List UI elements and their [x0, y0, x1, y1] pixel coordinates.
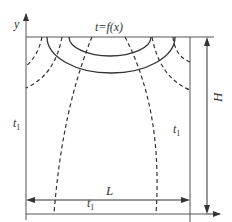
width-label: L [105, 183, 113, 198]
y-axis-label: y [13, 17, 20, 31]
flux-line-center-left [54, 37, 92, 214]
height-dimension [204, 37, 210, 214]
flux-line-left-top [26, 37, 42, 66]
flux-line-right-top [173, 37, 190, 62]
flux-line-right-mid [152, 37, 190, 90]
diagram-canvas: y x t=f(x) t1 t1 t1 L H [0, 0, 232, 222]
top-boundary-label: t=f(x) [95, 20, 123, 34]
flux-line-left-mid [26, 37, 62, 88]
right-boundary-label: t1 [173, 122, 180, 138]
left-boundary-label: t1 [13, 116, 20, 132]
bottom-boundary-label: t1 [87, 196, 94, 212]
isotherm-outer [47, 37, 175, 73]
height-label: H [210, 92, 225, 103]
flux-line-center-right [125, 37, 157, 214]
isotherms [47, 37, 175, 73]
isotherm-inner [69, 37, 151, 56]
x-axis-label: x [203, 217, 210, 222]
